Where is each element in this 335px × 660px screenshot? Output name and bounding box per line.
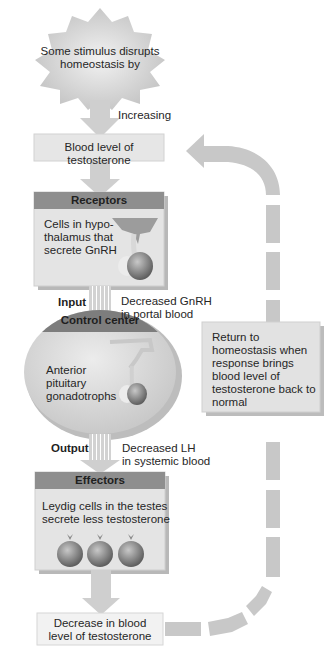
increasing-label: Increasing bbox=[118, 109, 171, 122]
response-line-1: Decrease in blood bbox=[37, 617, 163, 630]
feedback-line-1: Return to bbox=[212, 331, 316, 344]
feedback-line-2: homeostasis when bbox=[212, 344, 316, 357]
output-line-2: in systemic blood bbox=[122, 455, 210, 468]
stimulus-line-2: homeostasis by bbox=[40, 58, 160, 71]
stimulus-line-1: Some stimulus disrupts bbox=[40, 45, 160, 58]
receptors-text: Cells in hypo- thalamus that secrete GnR… bbox=[44, 218, 117, 257]
stimulus-text: Some stimulus disrupts homeostasis by bbox=[40, 45, 160, 71]
input-label: Input bbox=[58, 296, 86, 308]
feedback-line-6: normal bbox=[212, 396, 316, 409]
control-center-text: Anterior pituitary gonadotrophs bbox=[46, 364, 116, 403]
output-line-1: Decreased LH bbox=[122, 442, 210, 455]
effectors-line-1: Leydig cells in the testes bbox=[42, 500, 170, 513]
feedback-line-4: blood level of bbox=[212, 370, 316, 383]
output-description: Decreased LH in systemic blood bbox=[122, 442, 210, 468]
output-arrow bbox=[80, 434, 120, 474]
response-box: Decrease in blood level of testosterone bbox=[37, 617, 163, 643]
receptors-header: Receptors bbox=[34, 194, 164, 206]
feedback-box: Return to homeostasis when response brin… bbox=[212, 331, 316, 409]
control-center-header: Control center bbox=[30, 314, 170, 326]
input-line-1: Decreased GnRH bbox=[121, 295, 212, 308]
response-line-2: level of testosterone bbox=[37, 630, 163, 643]
receptors-line-1: Cells in hypo- bbox=[44, 218, 117, 231]
output-label: Output bbox=[51, 442, 89, 454]
control-center-line-3: gonadotrophs bbox=[46, 390, 116, 403]
effectors-text: Leydig cells in the testes secrete less … bbox=[42, 500, 170, 526]
receptors-line-2: thalamus that bbox=[44, 231, 117, 244]
diagram-canvas bbox=[0, 0, 335, 660]
arrow-effectors-to-response bbox=[82, 570, 120, 615]
feedback-line-5: testosterone back to bbox=[212, 383, 316, 396]
effectors-header: Effectors bbox=[35, 474, 165, 486]
variable-box: Blood level of testosterone bbox=[34, 141, 164, 167]
receptors-line-3: secrete GnRH bbox=[44, 244, 117, 257]
control-center-line-1: Anterior bbox=[46, 364, 116, 377]
leydig-cells bbox=[57, 534, 144, 567]
effectors-line-2: secrete less testosterone bbox=[42, 513, 170, 526]
control-center-line-2: pituitary bbox=[46, 377, 116, 390]
feedback-line-3: response brings bbox=[212, 357, 316, 370]
